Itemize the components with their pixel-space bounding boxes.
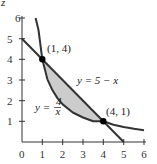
y-tick-label: 1	[7, 115, 13, 127]
line-equation-label: y = 5 − x	[76, 74, 118, 86]
x-tick-label: 3	[80, 148, 86, 160]
y-tick-label: 4	[7, 53, 13, 65]
curve-equation-label: y =	[34, 101, 50, 113]
curve-fraction-den: x	[55, 105, 61, 117]
x-tick-label: 6	[141, 148, 147, 160]
y-tick-label: 6	[15, 12, 21, 24]
line-y-5-minus-x	[22, 39, 124, 142]
chart: 0 1 2 3 4 5 6 1 2 3 4 5 6 z (1, 4) (4, 1…	[0, 0, 157, 164]
x-tick-label: 0	[19, 148, 25, 160]
y-tick-label: 3	[7, 74, 13, 86]
x-tick-label: 1	[40, 148, 46, 160]
y-tick-label: 5	[7, 33, 13, 45]
axis-label: z	[0, 0, 6, 8]
point-label-1-4: (1, 4)	[47, 42, 71, 55]
point-4-1	[100, 118, 106, 124]
x-tick-label: 2	[60, 148, 66, 160]
point-label-4-1: (4, 1)	[106, 105, 130, 118]
y-tick-label: 2	[7, 95, 13, 107]
x-tick-label: 4	[101, 148, 107, 160]
point-1-4	[39, 56, 45, 62]
x-tick-label: 5	[121, 148, 127, 160]
